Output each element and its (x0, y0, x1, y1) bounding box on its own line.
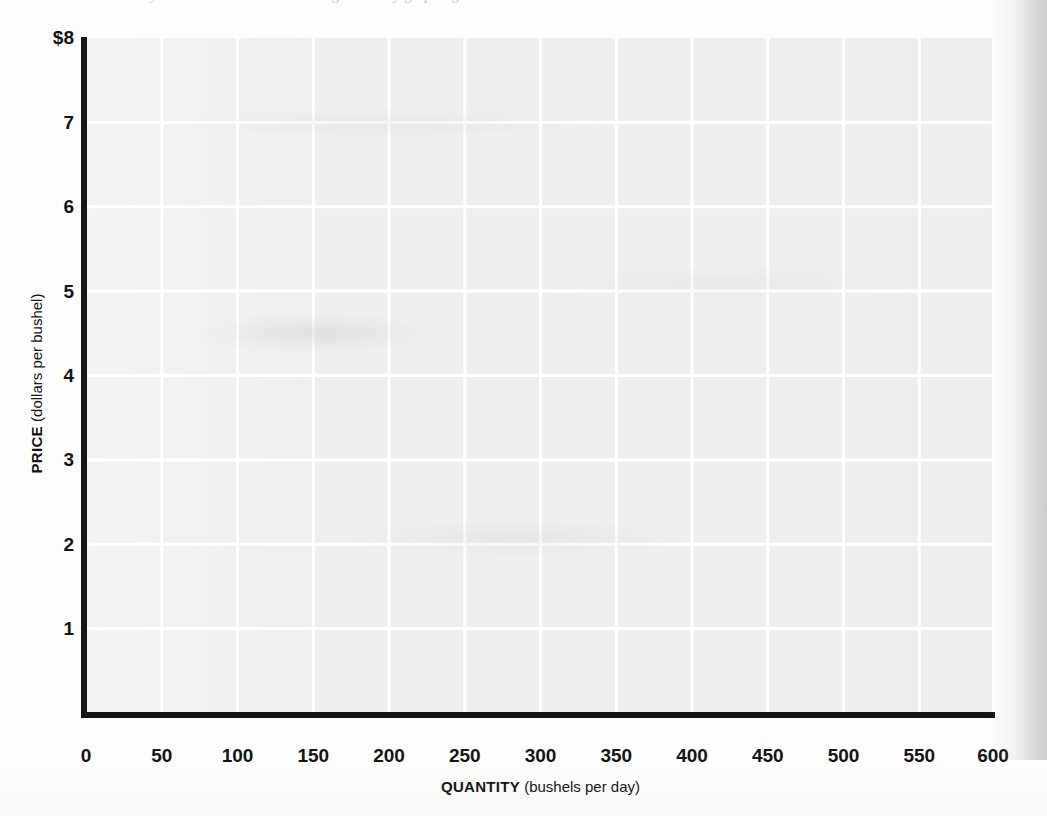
x-tick-label-250: 250 (425, 745, 505, 767)
x-tick-label-400: 400 (652, 745, 732, 767)
y-axis-title-strong: PRICE (28, 426, 45, 473)
y-tick-label-8: $8 (0, 27, 74, 49)
y-tick-label-2: 2 (0, 534, 74, 556)
y-axis-line (81, 37, 87, 718)
x-axis-title-strong: QUANTITY (441, 778, 520, 795)
price-quantity-graph: $8 7 6 5 4 3 2 1 0 50 100 150 200 250 30… (0, 0, 1047, 816)
x-tick-label-350: 350 (576, 745, 656, 767)
x-tick-label-600: 600 (953, 745, 1033, 767)
y-axis-title-units (28, 422, 45, 426)
x-tick-label-300: 300 (501, 745, 581, 767)
y-tick-label-7: 7 (0, 112, 74, 134)
y-tick-label-6: 6 (0, 196, 74, 218)
x-axis-title: QUANTITY (bushels per day) (86, 778, 995, 795)
y-axis-title: PRICE (dollars per bushel) (28, 254, 45, 514)
x-tick-label-150: 150 (273, 745, 353, 767)
gridlines (86, 38, 995, 713)
y-tick-label-1: 1 (0, 618, 74, 640)
plot-area (86, 38, 995, 713)
y-axis-title-sub: (dollars per bushel) (28, 294, 45, 422)
x-axis-title-sub: (bushels per day) (524, 778, 640, 795)
x-tick-label-200: 200 (349, 745, 429, 767)
x-tick-label-50: 50 (122, 745, 202, 767)
x-tick-label-500: 500 (804, 745, 884, 767)
scanned-page: to buy and what farmers are willing to s… (0, 0, 1047, 816)
x-tick-label-100: 100 (198, 745, 278, 767)
x-tick-label-0: 0 (46, 745, 126, 767)
x-tick-label-450: 450 (728, 745, 808, 767)
x-tick-label-550: 550 (879, 745, 959, 767)
x-axis-line (81, 712, 995, 718)
